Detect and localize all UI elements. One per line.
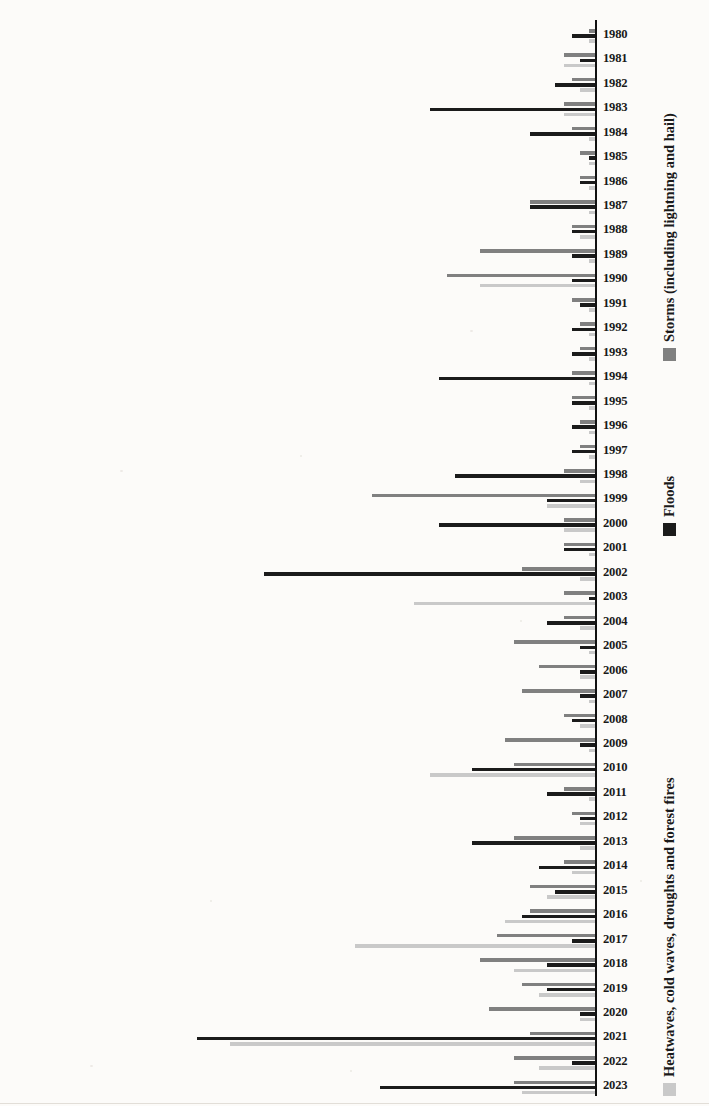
bar-flood (572, 1061, 597, 1065)
bar-group (97, 950, 597, 972)
bar-group (97, 999, 597, 1021)
bar-flood (564, 548, 597, 552)
bar-storm (489, 1007, 597, 1011)
bar-flood (572, 34, 597, 38)
category-label: 1986 (603, 174, 627, 189)
category-label: 1993 (603, 345, 627, 360)
bar-storm (522, 689, 597, 693)
bar-group (97, 876, 597, 898)
bar-group (97, 436, 597, 458)
page-background: 0102030405060 20232022202120202019201820… (0, 0, 709, 1106)
bar-group (97, 290, 597, 312)
bar-storm (572, 225, 597, 229)
category-label: 1990 (603, 271, 627, 286)
bar-group (97, 69, 597, 91)
bar-heat (355, 944, 597, 948)
bar-flood (572, 939, 597, 943)
rotated-figure-wrapper: 0102030405060 20232022202120202019201820… (0, 0, 709, 1106)
scan-speck (90, 1065, 93, 1067)
category-label: 1994 (603, 369, 627, 384)
bar-heat (564, 64, 597, 68)
bar-storm (572, 298, 597, 302)
legend-swatch-storm-icon (663, 348, 676, 361)
bar-group (97, 363, 597, 385)
category-label: 1982 (603, 76, 627, 91)
bar-storm (505, 738, 597, 742)
category-label: 2011 (603, 785, 627, 800)
bar-storm (572, 812, 597, 816)
bar-group (97, 412, 597, 434)
category-label: 2021 (603, 1029, 627, 1044)
bar-storm (564, 102, 597, 106)
legend-label: Storms (including lightning and hail) (661, 113, 678, 342)
category-label: 2014 (603, 858, 627, 873)
bar-group (97, 21, 597, 43)
bar-heat (564, 528, 597, 532)
category-label: 2022 (603, 1054, 627, 1069)
bar-storm (372, 494, 597, 498)
bar-group (97, 192, 597, 214)
bar-storm (572, 371, 597, 375)
bar-group (97, 143, 597, 165)
bar-flood (530, 205, 597, 209)
bar-storm (480, 958, 597, 962)
category-label: 1997 (603, 443, 627, 458)
bar-group (97, 1048, 597, 1070)
bar-group (97, 779, 597, 801)
category-label: 1987 (603, 198, 627, 213)
bar-storm (564, 591, 597, 595)
category-label: 2004 (603, 614, 627, 629)
bar-flood (555, 890, 597, 894)
category-label: 2018 (603, 956, 627, 971)
category-label: 2010 (603, 760, 627, 775)
bar-group (97, 559, 597, 581)
bar-group (97, 925, 597, 947)
bar-storm (564, 616, 597, 620)
bar-storm (530, 1032, 597, 1036)
bar-group (97, 632, 597, 654)
bar-storm (572, 78, 597, 82)
bar-flood (572, 425, 597, 429)
bar-group (97, 216, 597, 238)
bar-group (97, 118, 597, 140)
bar-flood (547, 988, 597, 992)
bar-heat (572, 871, 597, 875)
legend-swatch-flood-icon (663, 523, 676, 536)
category-label: 1995 (603, 394, 627, 409)
category-axis-line (595, 20, 597, 1096)
bar-flood (197, 1037, 597, 1041)
bar-flood (572, 230, 597, 234)
bar-flood (472, 841, 597, 845)
bar-flood (572, 328, 597, 332)
category-label: 2002 (603, 565, 627, 580)
bar-storm (564, 714, 597, 718)
bar-storm (564, 469, 597, 473)
category-label: 1996 (603, 418, 627, 433)
legend-label: Heatwaves, cold waves, droughts and fore… (661, 777, 678, 1077)
bar-group (97, 338, 597, 360)
legend-item-flood: Floods (661, 476, 678, 536)
category-label: 2007 (603, 687, 627, 702)
bar-group (97, 314, 597, 336)
bar-group (97, 828, 597, 850)
bar-storm (530, 885, 597, 889)
category-label: 2012 (603, 809, 627, 824)
bar-flood (572, 254, 597, 258)
plot-area (97, 20, 597, 1096)
bar-storm (514, 1081, 597, 1085)
category-label: 1992 (603, 320, 627, 335)
category-label: 1980 (603, 27, 627, 42)
bar-flood (539, 866, 597, 870)
legend-item-heat: Heatwaves, cold waves, droughts and fore… (661, 777, 678, 1096)
bar-group (97, 583, 597, 605)
bar-heat (522, 1091, 597, 1095)
scan-speck (350, 1070, 352, 1072)
bar-group (97, 803, 597, 825)
bar-group (97, 901, 597, 923)
bar-group (97, 387, 597, 409)
scan-speck (640, 880, 642, 882)
bar-heat (547, 504, 597, 508)
bar-storm (564, 860, 597, 864)
bar-group (97, 94, 597, 116)
bar-group (97, 485, 597, 507)
